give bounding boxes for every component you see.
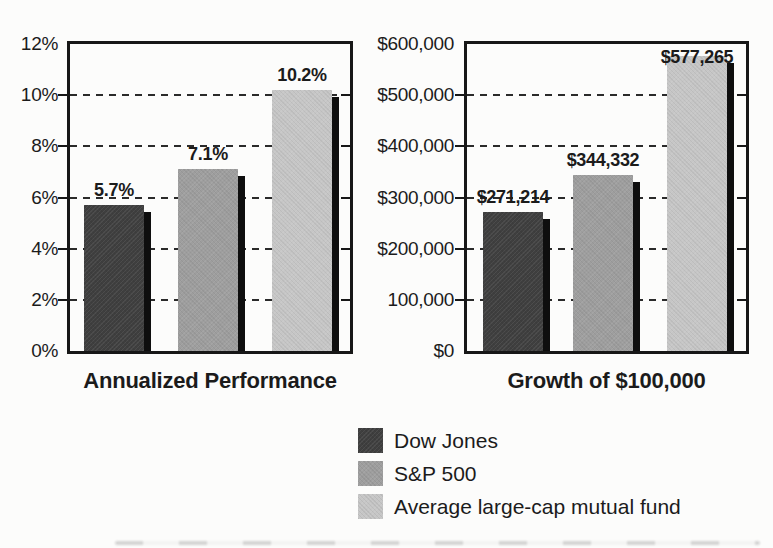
y-axis-tick-label: $0 — [368, 341, 454, 361]
legend-swatch — [358, 494, 383, 519]
bar-data-label: $577,265 — [661, 47, 734, 68]
y-axis-tick-label: $500,000 — [368, 85, 454, 105]
y-axis-tick-label: 12% — [0, 34, 58, 54]
axis-tick-inner — [737, 145, 746, 147]
bar-average-large-cap-mutual-fund — [272, 90, 332, 351]
y-axis-tick-label: 4% — [0, 239, 58, 259]
legend-swatch — [358, 461, 383, 486]
axis-tick-inner — [341, 299, 350, 301]
y-axis-tick-label: 10% — [0, 85, 58, 105]
axis-tick-inner — [341, 145, 350, 147]
axis-tick-outer — [58, 248, 67, 250]
y-axis-tick-label: $300,000 — [368, 188, 454, 208]
legend-label: S&P 500 — [394, 461, 477, 486]
y-axis-tick-label: 100,000 — [368, 290, 454, 310]
legend-label: Average large-cap mutual fund — [394, 494, 681, 519]
bar-data-label: 10.2% — [277, 65, 327, 86]
bar-dow-jones — [84, 205, 144, 351]
axis-tick-outer — [455, 197, 464, 199]
axis-tick-inner — [341, 248, 350, 250]
bar-dow-jones — [483, 212, 543, 351]
chart-title-growth-of-100000: Growth of $100,000 — [464, 368, 749, 394]
legend-item: Dow Jones — [358, 428, 681, 453]
legend-item: Average large-cap mutual fund — [358, 494, 681, 519]
axis-tick-outer — [455, 145, 464, 147]
legend-swatch — [358, 428, 383, 453]
axis-tick-outer — [58, 145, 67, 147]
scan-artifact-streak — [115, 541, 760, 545]
bar-data-label: 7.1% — [188, 144, 228, 165]
axis-tick-inner — [341, 94, 350, 96]
legend-label: Dow Jones — [394, 428, 498, 453]
bar-s-p-500 — [573, 175, 633, 351]
axis-tick-outer — [58, 197, 67, 199]
axis-tick-inner — [341, 197, 350, 199]
axis-tick-inner — [737, 197, 746, 199]
axis-tick-inner — [737, 299, 746, 301]
axis-tick-outer — [455, 299, 464, 301]
y-axis-tick-label: $200,000 — [368, 239, 454, 259]
axis-tick-outer — [455, 248, 464, 250]
bar-average-large-cap-mutual-fund — [667, 56, 727, 351]
plot-area-growth-of-100000: $271,214$344,332$577,265 — [464, 41, 749, 354]
legend-item: S&P 500 — [358, 461, 681, 486]
y-axis-tick-label: $600,000 — [368, 34, 454, 54]
axis-tick-inner — [737, 248, 746, 250]
legend: Dow JonesS&P 500Average large-cap mutual… — [358, 428, 681, 527]
bar-s-p-500 — [178, 169, 238, 351]
y-axis-tick-label: 2% — [0, 290, 58, 310]
plot-area-annualized-performance: 5.7%7.1%10.2% — [67, 41, 353, 354]
y-axis-tick-label: 8% — [0, 136, 58, 156]
axis-tick-outer — [455, 94, 464, 96]
axis-tick-outer — [58, 94, 67, 96]
axis-tick-outer — [58, 299, 67, 301]
bar-data-label: 5.7% — [94, 180, 134, 201]
bar-data-label: $344,332 — [567, 150, 640, 171]
y-axis-tick-label: 6% — [0, 188, 58, 208]
axis-tick-inner — [737, 94, 746, 96]
bar-data-label: $271,214 — [477, 187, 550, 208]
y-axis-tick-label: $400,000 — [368, 136, 454, 156]
chart-title-annualized-performance: Annualized Performance — [67, 368, 353, 394]
y-axis-tick-label: 0% — [0, 341, 58, 361]
two-panel-bar-chart-figure: Dow JonesS&P 500Average large-cap mutual… — [0, 0, 773, 548]
